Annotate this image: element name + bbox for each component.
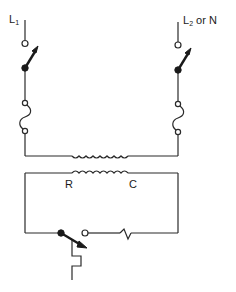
line1-label: L1: [9, 14, 19, 26]
thermostat-contact: [82, 230, 88, 236]
line2-fuse-terminal-top: [175, 101, 180, 106]
line2-fuse-terminal-bottom: [175, 129, 180, 134]
line2-label-suffix: or N: [193, 14, 217, 26]
line1-fuse-element: [20, 105, 31, 129]
line2-label: L2 or N: [183, 15, 217, 27]
line1-switch-contact: [22, 41, 28, 47]
coil-c-label: C: [129, 179, 137, 190]
line2-fuse-element: [173, 106, 184, 130]
thermostat-arrow: [77, 241, 87, 248]
coil-r-label: R: [65, 179, 73, 190]
line1-fuse-terminal-bottom: [22, 128, 27, 133]
line1-switch-arrow: [32, 46, 38, 53]
line1-label-sub: 1: [15, 19, 19, 26]
transformer-primary-coil: [72, 156, 128, 158]
line2-switch-arrow: [185, 48, 191, 55]
control-resistor: [120, 229, 131, 239]
circuit-diagram: [0, 0, 236, 292]
line2-switch-contact: [175, 42, 181, 48]
line1-fuse-terminal-top: [22, 100, 27, 105]
transformer-secondary-coil: [72, 171, 128, 173]
